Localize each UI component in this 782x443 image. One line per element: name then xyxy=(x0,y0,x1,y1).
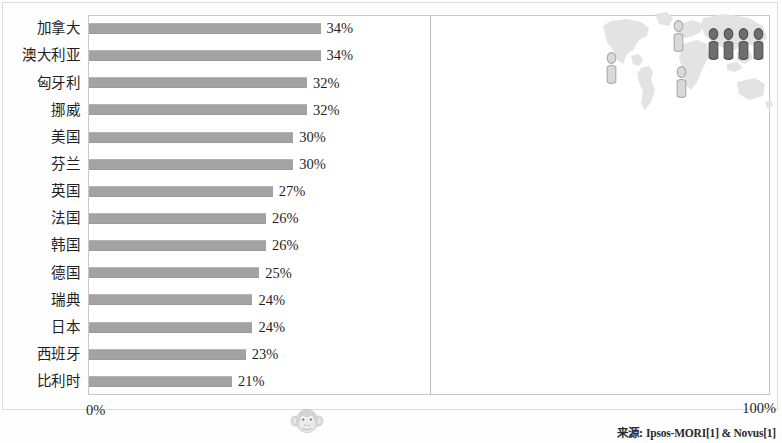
category-label: 澳大利亚 xyxy=(0,48,80,63)
monkey-face-icon xyxy=(290,408,324,434)
world-map-inset xyxy=(597,6,777,124)
bar-value-label: 32% xyxy=(313,76,340,91)
category-label: 芬兰 xyxy=(0,157,80,172)
category-label: 比利时 xyxy=(0,374,80,389)
bar-container: 32% xyxy=(89,96,340,123)
bar-container: 34% xyxy=(89,42,353,69)
bar-container: 25% xyxy=(89,259,292,286)
bar-container: 30% xyxy=(89,124,326,151)
bar xyxy=(89,376,232,387)
person-icon xyxy=(752,28,765,62)
bar-value-label: 23% xyxy=(252,347,279,362)
bar-container: 26% xyxy=(89,205,299,232)
bar xyxy=(89,213,266,224)
person-icon xyxy=(722,28,735,62)
bar-row: 美国30% xyxy=(0,124,782,151)
bar xyxy=(89,186,273,197)
bar-container: 32% xyxy=(89,69,340,96)
bar xyxy=(89,294,252,305)
bar-container: 21% xyxy=(89,368,265,395)
category-label: 瑞典 xyxy=(0,293,80,308)
bar-row: 英国27% xyxy=(0,178,782,205)
bar-value-label: 21% xyxy=(238,374,265,389)
x-axis-tick-right: 100% xyxy=(742,400,776,417)
category-label: 韩国 xyxy=(0,238,80,253)
person-icon xyxy=(672,20,685,54)
bar-row: 瑞典24% xyxy=(0,286,782,313)
bar-value-label: 30% xyxy=(299,130,326,145)
bar-container: 23% xyxy=(89,341,278,368)
bar xyxy=(89,23,321,34)
bar xyxy=(89,104,307,115)
bar-value-label: 26% xyxy=(272,238,299,253)
person-icon xyxy=(737,28,750,62)
bar-value-label: 24% xyxy=(258,320,285,335)
bar-value-label: 30% xyxy=(299,157,326,172)
source-label: 来源 xyxy=(617,426,639,440)
bar-value-label: 24% xyxy=(258,293,285,308)
bar xyxy=(89,77,307,88)
bar xyxy=(89,159,293,170)
world-map-icon xyxy=(597,6,777,124)
bar xyxy=(89,322,252,333)
bar-row: 芬兰30% xyxy=(0,151,782,178)
chart-figure: 加拿大34%澳大利亚34%匈牙利32%挪威32%美国30%芬兰30%英国27%法… xyxy=(0,0,782,443)
category-label: 匈牙利 xyxy=(0,76,80,91)
bar-value-label: 25% xyxy=(265,266,292,281)
bar-container: 24% xyxy=(89,286,285,313)
bar xyxy=(89,240,266,251)
person-icon xyxy=(675,66,688,100)
source-note: 来源: Ipsos-MORI[1] & Novus[1] xyxy=(617,424,776,440)
category-label: 挪威 xyxy=(0,103,80,118)
bar-container: 34% xyxy=(89,15,353,42)
category-label: 英国 xyxy=(0,184,80,199)
bar-value-label: 34% xyxy=(327,21,354,36)
bar xyxy=(89,349,246,360)
bar-value-label: 32% xyxy=(313,103,340,118)
bar-row: 德国25% xyxy=(0,259,782,286)
bar-container: 30% xyxy=(89,151,326,178)
bar-value-label: 27% xyxy=(279,184,306,199)
category-label: 法国 xyxy=(0,211,80,226)
bar-value-label: 34% xyxy=(327,48,354,63)
category-label: 美国 xyxy=(0,130,80,145)
person-icon xyxy=(605,52,618,86)
person-icon xyxy=(707,28,720,62)
bar-value-label: 26% xyxy=(272,211,299,226)
category-label: 加拿大 xyxy=(0,21,80,36)
bar-row: 比利时21% xyxy=(0,368,782,395)
source-text: Ipsos-MORI[1] & Novus[1] xyxy=(646,427,776,439)
bar-row: 西班牙23% xyxy=(0,341,782,368)
bar-container: 26% xyxy=(89,232,299,259)
x-axis-tick-left: 0% xyxy=(86,402,105,419)
bar xyxy=(89,50,321,61)
bar-row: 韩国26% xyxy=(0,232,782,259)
bar-row: 法国26% xyxy=(0,205,782,232)
bar-row: 日本24% xyxy=(0,314,782,341)
category-label: 德国 xyxy=(0,266,80,281)
bar-container: 27% xyxy=(89,178,305,205)
bar xyxy=(89,267,259,278)
source-separator: : xyxy=(639,426,643,440)
bar xyxy=(89,132,293,143)
bar-container: 24% xyxy=(89,314,285,341)
category-label: 日本 xyxy=(0,320,80,335)
category-label: 西班牙 xyxy=(0,347,80,362)
